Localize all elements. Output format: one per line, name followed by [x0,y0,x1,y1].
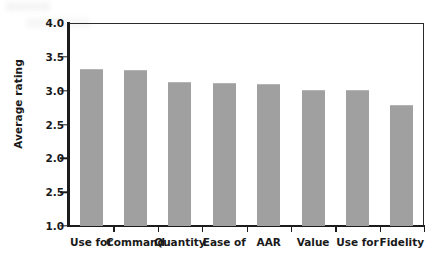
x-tick-label: Ease of [203,236,246,248]
bar [302,90,325,226]
y-tick-mark [60,158,68,159]
x-tick-label: Quantity [154,236,205,248]
y-tick-label: 2.5 [30,119,64,131]
bar-chart: Average rating 4.03.53.02.52.02.51.0 Use… [0,0,442,261]
y-tick-label: 3.0 [30,85,64,97]
x-tick-label: AAR [257,236,281,248]
x-tick-mark [158,226,159,232]
y-tick-mark [60,191,68,192]
y-tick-label: 2.0 [30,152,64,164]
bar-series [69,23,424,226]
x-tick-label: Fidelity [380,236,424,248]
y-tick-mark [60,124,68,125]
x-tick-label: Value [297,236,330,248]
y-tick-label: 4.0 [30,17,64,29]
y-tick-label: 1.0 [30,220,64,232]
x-tick-mark [335,226,336,232]
x-tick-mark [113,226,114,232]
y-tick-mark [60,90,68,91]
y-axis-tick-labels: 4.03.53.02.52.02.51.0 [30,0,64,261]
y-axis-title: Average rating [12,44,24,164]
bar [80,69,103,226]
x-tick-mark [202,226,203,232]
bar [257,84,280,226]
x-tick-label: Use for [336,236,379,248]
bar [346,90,369,226]
x-tick-mark [424,226,425,232]
bar [168,82,191,226]
x-axis-tick-labels: Use forCommandQuantityEase ofAARValueUse… [69,236,424,256]
y-tick-mark [60,225,68,226]
bar [124,70,147,226]
y-tick-label: 3.5 [30,51,64,63]
bar [213,83,236,226]
x-tick-mark [291,226,292,232]
x-tick-mark [247,226,248,232]
y-tick-label: 2.5 [30,186,64,198]
x-tick-mark [380,226,381,232]
bar [390,105,413,226]
y-tick-mark [60,56,68,57]
